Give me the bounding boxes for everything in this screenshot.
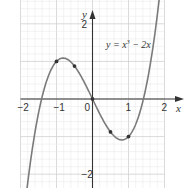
x-tick-label: −1 (54, 102, 66, 113)
axes (21, 10, 185, 188)
data-point (73, 64, 77, 68)
function-graph: −2−101242−2−4 x y y = x3 − 2x (0, 0, 191, 188)
x-axis-label: x (175, 102, 181, 114)
equation-suffix: − 2x (130, 39, 152, 50)
x-tick-label: −2 (18, 102, 30, 113)
x-tick-label: 0 (85, 102, 91, 113)
data-point (127, 135, 131, 139)
x-tick-label: 2 (162, 102, 168, 113)
data-point (55, 60, 59, 64)
x-tick-label: 1 (126, 102, 132, 113)
data-point (91, 97, 95, 101)
y-axis-label: y (81, 8, 87, 20)
equation-prefix: y = x (105, 39, 127, 50)
y-tick-label: −2 (82, 169, 94, 180)
y-axis-arrow-icon (90, 10, 96, 19)
data-point (109, 130, 113, 134)
y-tick-label: 2 (82, 19, 88, 30)
